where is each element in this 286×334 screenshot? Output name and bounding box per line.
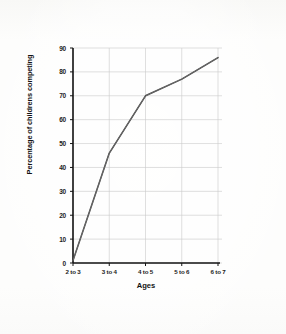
x-tick-label: 2 to 3: [56, 268, 90, 275]
x-axis-title: Ages: [73, 281, 219, 290]
x-tick-label: 5 to 6: [165, 268, 199, 275]
y-tick-label: 30: [52, 188, 66, 195]
y-tick-label: 40: [52, 164, 66, 171]
y-tick-label: 10: [52, 236, 66, 243]
y-tick-label: 80: [52, 68, 66, 75]
y-axis-title: Percentage of childrens competing: [25, 40, 34, 190]
y-tick-label: 50: [52, 140, 66, 147]
y-tick-label: 90: [52, 45, 66, 52]
y-tick-label: 60: [52, 116, 66, 123]
gridlines: [73, 48, 222, 263]
y-tick-label: 20: [52, 212, 66, 219]
x-tick-label: 4 to 5: [129, 268, 163, 275]
x-tick-label: 3 to 4: [92, 268, 126, 275]
line-chart-figure: 0102030405060708090 2 to 33 to 44 to 55 …: [0, 0, 286, 334]
y-tick-label: 70: [52, 92, 66, 99]
y-tick-label: 0: [52, 260, 66, 267]
x-tick-label: 6 to 7: [201, 268, 235, 275]
